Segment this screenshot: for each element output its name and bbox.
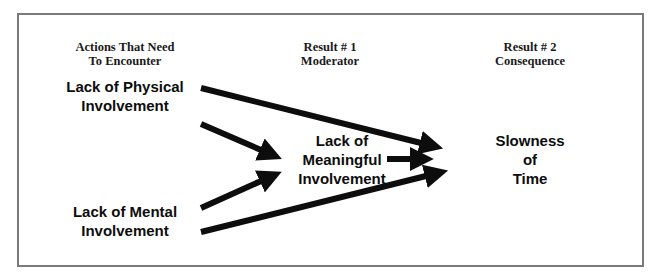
arrow-physical-to-meaningful: [201, 124, 261, 150]
arrow-physical-to-slowness: [201, 88, 421, 143]
arrow-mental-to-slowness: [201, 176, 426, 232]
arrows-layer: [0, 0, 659, 273]
arrow-mental-to-meaningful: [201, 181, 261, 208]
